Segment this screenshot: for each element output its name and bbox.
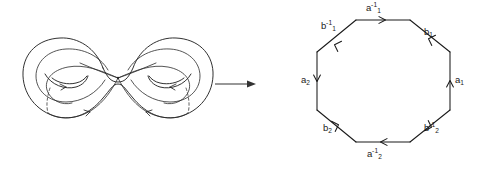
label-sub: 2 (328, 127, 332, 134)
label-sub: 1 (332, 25, 336, 32)
octagon-label-b1-inverse: b-11 (321, 20, 336, 32)
octagon-label-a2: a2 (301, 74, 310, 86)
label-sub: 1 (460, 79, 464, 86)
left-handle-hole-lower (52, 76, 87, 84)
right-handle-hole-lower (149, 76, 184, 84)
label-sub: 1 (377, 7, 381, 14)
label-sub: 2 (306, 79, 310, 86)
octagon-arrow-top-left-diag (335, 41, 342, 51)
figure-canvas (0, 0, 479, 169)
loop-b2-visible (118, 78, 188, 118)
octagon-label-b1: b1 (424, 26, 433, 38)
loop-b1-visible (48, 78, 118, 118)
octagon-label-b2: b2 (323, 122, 332, 134)
label-sub: 1 (429, 31, 433, 38)
label-sub: 2 (378, 153, 382, 160)
octagon-label-b2-inverse: b-12 (424, 122, 439, 134)
basepoint-strand-upper-left (80, 63, 118, 78)
map-arrow-group (215, 81, 256, 88)
basepoint-strand-upper-right (118, 63, 156, 78)
map-arrow-head (247, 81, 256, 88)
label-sub: 2 (435, 127, 439, 134)
octagon-label-a2-inverse: a-12 (367, 148, 382, 160)
octagon-label-a1-inverse: a-11 (366, 2, 381, 14)
octagon-label-a1: a1 (455, 74, 464, 86)
topology-figure: a-11 b1 a1 b-12 a-12 b2 a2 b-11 (0, 0, 479, 169)
genus-2-surface-group (23, 38, 213, 118)
